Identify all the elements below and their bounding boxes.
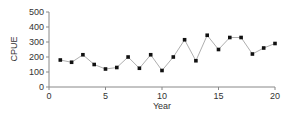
data-point-marker	[194, 59, 198, 63]
data-point-marker	[217, 48, 221, 52]
x-axis-label: Year	[153, 101, 171, 111]
data-point-marker	[205, 33, 209, 37]
data-point-marker	[104, 67, 108, 71]
data-point-marker	[228, 36, 232, 40]
y-tick-label: 400	[29, 22, 44, 32]
data-point-marker	[138, 66, 142, 70]
data-point-marker	[149, 53, 153, 57]
data-point-marker	[81, 53, 85, 57]
data-series	[59, 33, 277, 72]
y-axis-label: CPUE	[9, 36, 19, 61]
x-tick-label: 10	[157, 91, 167, 101]
y-tick-label: 100	[29, 67, 44, 77]
data-point-marker	[273, 42, 277, 46]
data-point-marker	[172, 55, 176, 59]
chart-svg: 010020030040050005101520 Year CPUE	[0, 0, 295, 113]
cpue-line-chart: 010020030040050005101520 Year CPUE	[0, 0, 295, 113]
data-point-marker	[251, 52, 255, 56]
data-point-marker	[70, 60, 74, 64]
y-tick-label: 0	[39, 82, 44, 92]
data-point-marker	[59, 58, 63, 62]
data-point-marker	[262, 46, 266, 50]
data-point-marker	[239, 36, 243, 40]
x-tick-label: 5	[103, 91, 108, 101]
axes: 010020030040050005101520	[29, 7, 280, 101]
y-tick-label: 200	[29, 52, 44, 62]
data-point-marker	[126, 55, 130, 59]
data-point-marker	[183, 38, 187, 42]
data-point-marker	[160, 69, 164, 73]
x-tick-label: 0	[46, 91, 51, 101]
x-tick-label: 20	[270, 91, 280, 101]
data-point-marker	[92, 63, 96, 67]
x-tick-label: 15	[213, 91, 223, 101]
y-tick-label: 500	[29, 7, 44, 17]
y-tick-label: 300	[29, 37, 44, 47]
data-point-marker	[115, 66, 119, 70]
